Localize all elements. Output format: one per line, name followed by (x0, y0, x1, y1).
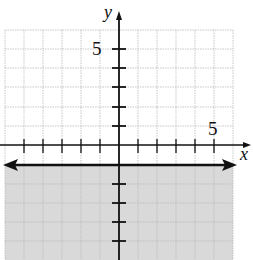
x-axis (0, 139, 251, 153)
x-axis-label: x (240, 144, 248, 165)
y-axis (112, 11, 126, 260)
y-axis-label: y (104, 2, 112, 23)
x-tick-label-5: 5 (208, 118, 218, 140)
y-tick-label-5: 5 (92, 38, 102, 60)
